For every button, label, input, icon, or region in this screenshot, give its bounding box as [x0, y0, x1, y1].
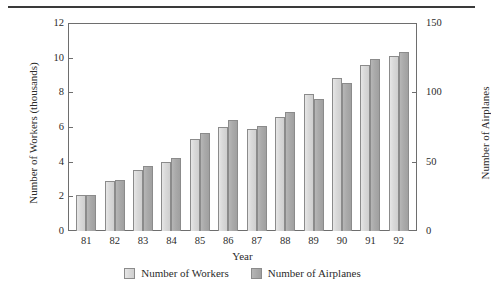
header-rule — [8, 6, 475, 8]
bar-workers — [304, 94, 314, 231]
y-axis-left-tick-label: 0 — [59, 226, 64, 237]
bar-airplanes — [228, 120, 238, 231]
bar-workers — [76, 195, 86, 231]
x-axis-tick-label: 90 — [328, 233, 356, 249]
y-axis-left-tick-label: 10 — [54, 52, 65, 63]
x-axis-tick-label: 88 — [271, 233, 299, 249]
x-axis-tick-label: 87 — [243, 233, 271, 249]
x-axis-tick-label: 84 — [157, 233, 185, 249]
bar-airplanes — [285, 112, 295, 231]
y-axis-left-tick-label: 4 — [59, 156, 64, 167]
bar-workers — [133, 170, 143, 231]
bar-group — [385, 23, 413, 231]
x-axis-tick-label: 85 — [186, 233, 214, 249]
bar-group — [100, 23, 128, 231]
legend-item[interactable]: Number of Airplanes — [251, 267, 361, 279]
y-axis-right: 050100150 — [417, 23, 483, 231]
x-axis-tick-label: 86 — [214, 233, 242, 249]
bar-group — [243, 23, 271, 231]
bar-group — [328, 23, 356, 231]
y-axis-right-tick-label: 100 — [426, 87, 442, 98]
bar-workers — [247, 129, 257, 231]
bar-airplanes — [370, 59, 380, 231]
x-axis-tick-label: 92 — [385, 233, 413, 249]
bar-airplanes — [86, 195, 96, 231]
bar-airplanes — [115, 180, 125, 231]
bar-group — [214, 23, 242, 231]
bar-group — [271, 23, 299, 231]
bar-workers — [161, 162, 171, 231]
bar-airplanes — [314, 99, 324, 231]
y-axis-left-tick-label: 6 — [59, 122, 64, 133]
bar-group — [356, 23, 384, 231]
bar-workers — [218, 127, 228, 231]
bar-airplanes — [143, 166, 153, 231]
bar-airplanes — [399, 52, 409, 231]
bar-workers — [332, 78, 342, 231]
x-axis-title: Year — [68, 250, 417, 262]
x-axis-tick-label: 81 — [72, 233, 100, 249]
bar-airplanes — [342, 83, 352, 231]
bar-airplanes — [257, 126, 267, 231]
legend-swatch-icon — [251, 268, 262, 279]
bar-workers — [105, 181, 115, 231]
y-axis-right-tick-label: 0 — [426, 226, 431, 237]
y-axis-left-title: Number of Workers (thousands) — [27, 28, 39, 238]
bar-airplanes — [171, 158, 181, 231]
bar-workers — [360, 65, 370, 231]
bar-group — [299, 23, 327, 231]
y-axis-left-tick-label: 12 — [54, 18, 65, 29]
bar-groups — [68, 23, 417, 231]
y-axis-right-title: Number of Airplanes — [479, 43, 491, 223]
y-axis-right-tick-label: 50 — [426, 156, 437, 167]
x-axis-tick-label: 91 — [356, 233, 384, 249]
x-axis: 818283848586878889909192 — [68, 233, 417, 249]
legend-item-label: Number of Workers — [141, 267, 229, 279]
bar-group — [157, 23, 185, 231]
x-axis-tick-label: 83 — [129, 233, 157, 249]
bar-workers — [275, 117, 285, 231]
y-axis-left-tick-label: 8 — [59, 87, 64, 98]
y-axis-right-tick-label: 150 — [426, 18, 442, 29]
y-axis-left-tick-label: 2 — [59, 191, 64, 202]
bar-workers — [389, 56, 399, 231]
bar-airplanes — [200, 133, 210, 231]
legend-item-label: Number of Airplanes — [268, 267, 361, 279]
legend-item[interactable]: Number of Workers — [124, 267, 229, 279]
bar-group — [129, 23, 157, 231]
x-axis-tick-label: 82 — [100, 233, 128, 249]
bar-workers — [190, 139, 200, 231]
bar-group — [72, 23, 100, 231]
legend-swatch-icon — [124, 268, 135, 279]
chart-legend: Number of WorkersNumber of Airplanes — [68, 267, 417, 279]
x-axis-tick-label: 89 — [299, 233, 327, 249]
bar-group — [186, 23, 214, 231]
